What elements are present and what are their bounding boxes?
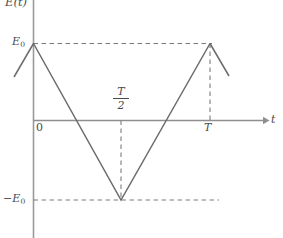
amplitude-negative-label: −E0 [3,193,25,206]
amplitude-positive-label: E0 [12,36,25,49]
period-label: T [204,122,211,133]
half-period-label: T 2 [113,86,129,111]
half-period-denominator: 2 [113,100,129,112]
y-axis-label-arg: (t) [13,0,27,9]
plot-canvas [0,0,283,238]
half-period-numerator: T [113,86,129,98]
waveform-triangular [34,44,211,201]
origin-label: 0 [36,122,43,133]
amplitude-positive-symbol: E [12,35,20,48]
waveform-stub-right [210,44,229,77]
amplitude-negative-symbol: −E [3,192,20,205]
triangular-wave-figure: E(t) E0 −E0 0 T 2 T t [0,0,283,238]
y-axis-label: E(t) [5,0,27,9]
amplitude-negative-subscript: 0 [20,197,25,206]
amplitude-positive-subscript: 0 [20,40,25,49]
t-axis-label: t [271,114,275,125]
t-axis-arrowhead [263,117,270,124]
